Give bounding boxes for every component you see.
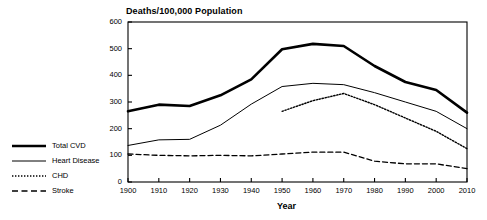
chart-figure: Deaths/100,000 Population 01002003004005… bbox=[0, 0, 487, 220]
x-tick-label: 2010 bbox=[452, 186, 482, 195]
series-line-heart-disease bbox=[128, 83, 467, 145]
legend-item-stroke: Stroke bbox=[12, 183, 112, 198]
legend-swatch-icon bbox=[12, 186, 46, 196]
x-tick-label: 1900 bbox=[113, 186, 143, 195]
legend-label: Heart Disease bbox=[52, 156, 100, 165]
series-line-stroke bbox=[128, 152, 467, 169]
x-tick-label: 1960 bbox=[298, 186, 328, 195]
x-tick-label: 1930 bbox=[205, 186, 235, 195]
legend-swatch-icon bbox=[12, 156, 46, 166]
x-tick-label: 1990 bbox=[390, 186, 420, 195]
legend-item-total-cvd: Total CVD bbox=[12, 138, 112, 153]
legend-label: Total CVD bbox=[52, 141, 86, 150]
x-tick-label: 2000 bbox=[421, 186, 451, 195]
y-tick-label: 400 bbox=[98, 70, 122, 79]
x-tick-label: 1980 bbox=[360, 186, 390, 195]
y-tick-label: 500 bbox=[98, 44, 122, 53]
legend-item-heart-disease: Heart Disease bbox=[12, 153, 112, 168]
chart-title: Deaths/100,000 Population bbox=[126, 6, 243, 16]
legend-label: CHD bbox=[52, 171, 68, 180]
x-axis-label: Year bbox=[277, 201, 296, 211]
x-tick-label: 1920 bbox=[175, 186, 205, 195]
x-tick-label: 1950 bbox=[267, 186, 297, 195]
y-tick-label: 600 bbox=[98, 17, 122, 26]
y-tick-label: 300 bbox=[98, 97, 122, 106]
legend-swatch-icon bbox=[12, 141, 46, 151]
chart-legend: Total CVDHeart DiseaseCHDStroke bbox=[12, 138, 112, 198]
x-tick-label: 1940 bbox=[236, 186, 266, 195]
legend-label: Stroke bbox=[52, 186, 74, 195]
series-line-chd bbox=[282, 93, 467, 148]
legend-item-chd: CHD bbox=[12, 168, 112, 183]
x-tick-label: 1970 bbox=[329, 186, 359, 195]
x-tick-label: 1910 bbox=[144, 186, 174, 195]
legend-swatch-icon bbox=[12, 171, 46, 181]
y-tick-label: 200 bbox=[98, 124, 122, 133]
series-line-total-cvd bbox=[128, 44, 467, 113]
